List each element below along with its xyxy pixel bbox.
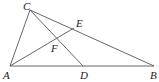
label-b: B: [150, 69, 157, 81]
label-c: C: [23, 0, 31, 12]
label-d: D: [79, 69, 88, 81]
geometry-figure: C E F A D B: [0, 0, 159, 82]
segment-cb: [30, 10, 154, 66]
label-e: E: [75, 17, 83, 29]
label-a: A: [2, 69, 10, 81]
label-f: F: [50, 42, 58, 54]
segment-ac: [10, 10, 30, 66]
